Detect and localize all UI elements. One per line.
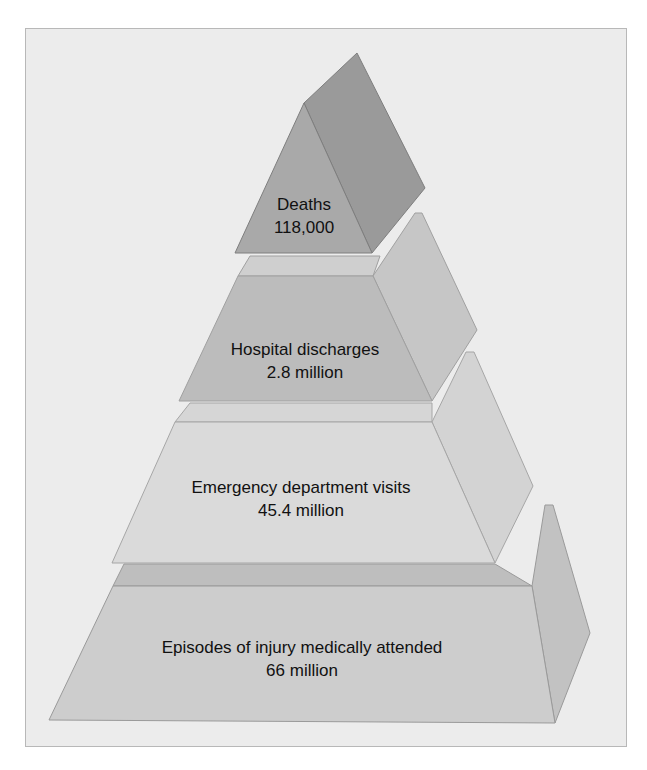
tier-deaths-label: Deaths xyxy=(277,195,331,214)
injury-pyramid-figure: Episodes of injury medically attended 66… xyxy=(0,0,647,770)
tier-hospital-label: Hospital discharges xyxy=(231,340,379,359)
pyramid-diagram: Episodes of injury medically attended 66… xyxy=(0,0,647,770)
tier-hospital-top-band xyxy=(238,256,380,276)
tier-emergency-label: Emergency department visits xyxy=(191,478,410,497)
tier-episodes-value: 66 million xyxy=(266,661,338,680)
tier-emergency-value: 45.4 million xyxy=(258,501,344,520)
tier-episodes-top-band xyxy=(113,564,532,586)
tier-hospital-value: 2.8 million xyxy=(267,363,344,382)
tier-emergency-top-band xyxy=(175,403,432,422)
tier-deaths-value: 118,000 xyxy=(274,218,334,237)
tier-episodes-label: Episodes of injury medically attended xyxy=(162,638,443,657)
